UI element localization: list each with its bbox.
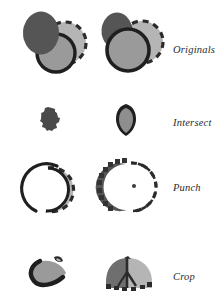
intersect-blob-left xyxy=(40,107,60,131)
intersect-shield-right xyxy=(116,104,136,136)
punch-crescent-right xyxy=(96,158,156,211)
row-label-intersect: Intersect xyxy=(173,117,212,128)
originals-left-group xyxy=(23,12,86,72)
crop-lens-left xyxy=(31,256,66,285)
crop-dome-right xyxy=(106,256,152,291)
originals-right-group xyxy=(102,13,163,71)
punch-crescent-left xyxy=(19,164,73,213)
row-label-originals: Originals xyxy=(173,44,215,55)
cog-shape xyxy=(23,12,59,55)
boolean-operations-figure: Originals Intersect Punch Crop xyxy=(0,0,221,307)
outlined-circle-shape xyxy=(107,29,149,71)
row-label-punch: Punch xyxy=(173,182,201,193)
row-label-crop: Crop xyxy=(173,271,195,282)
